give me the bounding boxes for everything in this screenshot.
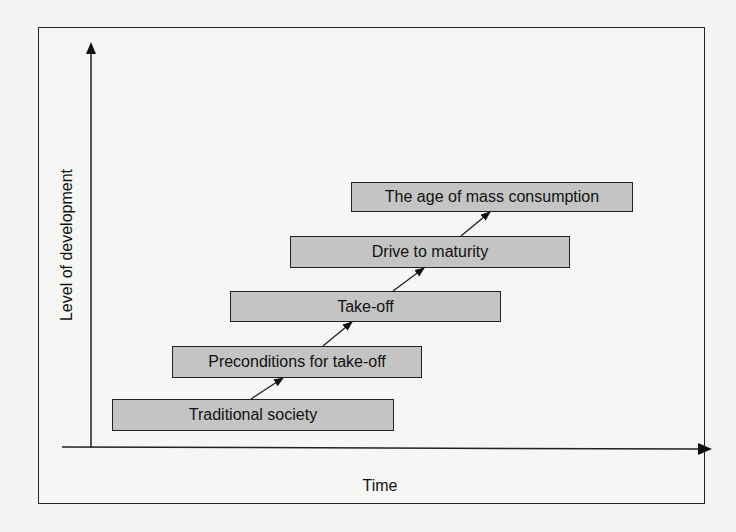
stage-label: Drive to maturity [372,243,488,261]
stage-drive-to-maturity: Drive to maturity [290,236,570,268]
arrow-maturity-to-mass-consumption [461,212,490,236]
arrow-preconditions-to-takeoff [323,322,352,346]
x-axis-line [62,447,700,449]
stage-label: Take-off [337,298,394,316]
arrow-takeoff-to-maturity [393,268,424,291]
stage-age-of-mass-consumption: The age of mass consumption [351,182,633,212]
x-axis-arrow-icon [698,443,712,455]
stage-traditional-society: Traditional society [112,399,394,431]
x-axis-label: Time [363,477,398,495]
y-axis-arrow-icon [86,42,96,54]
stage-label: The age of mass consumption [385,188,599,206]
stage-take-off: Take-off [230,291,501,322]
stage-label: Preconditions for take-off [208,353,386,371]
stage-label: Traditional society [189,406,317,424]
arrow-traditional-to-preconditions [251,378,283,399]
stage-preconditions-for-take-off: Preconditions for take-off [172,346,422,378]
y-axis-label: Level of development [58,169,76,321]
